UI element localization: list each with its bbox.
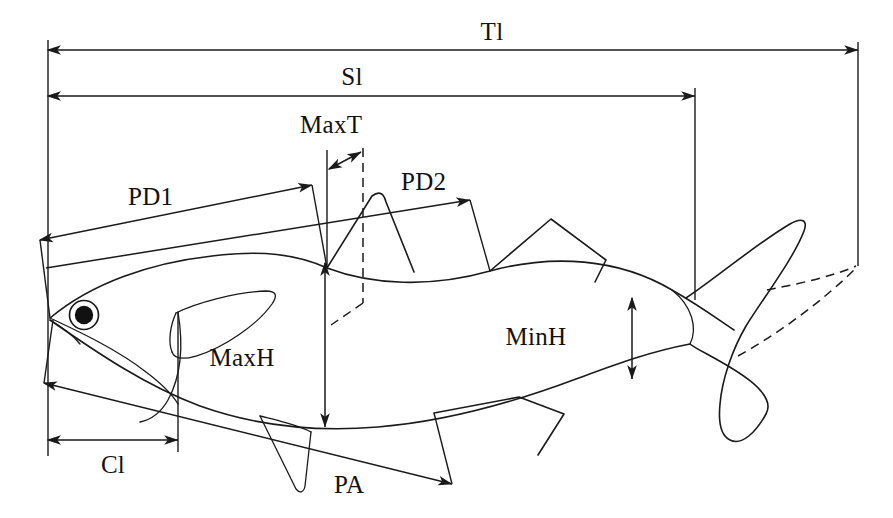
operculum-rear-edge [140,312,181,422]
dorsal-fin [327,193,414,272]
fish-morphometrics-figure: Tl Sl MaxT PD1 PD2 MaxH [0,0,893,518]
label-pa: PA [334,471,364,498]
eye-pupil [75,306,93,324]
pectoral-fin-base [170,313,176,352]
tick-pd1-to-dorsal-origin [312,185,327,268]
dimension-maxt: MaxT [300,111,362,169]
dimension-minh: MinH [506,298,632,379]
anal-fin [434,397,564,455]
dimension-pd2: PD2 [46,168,490,271]
label-pd1: PD1 [128,183,173,210]
label-maxh: MaxH [209,344,274,371]
dimension-cl: Cl [48,440,178,478]
dimension-pd1: PD1 [40,183,327,318]
dimension-line-maxt [329,152,361,169]
caudal-peduncle-edge [672,290,693,344]
fish-diagram-canvas: Tl Sl MaxT PD1 PD2 MaxH [0,0,893,518]
caudal-fin [686,220,805,441]
dashed-diagonal-maxt [331,303,363,325]
dimension-maxh: MaxH [209,263,325,427]
label-minh: MinH [506,323,567,350]
tick-pd2-to-adipose-origin [470,200,490,271]
label-maxt: MaxT [300,111,362,138]
body-outline-ventral [50,320,690,429]
dimension-line-pd2 [46,200,470,268]
operculum-outline [50,318,178,404]
dimension-sl: Sl [48,63,695,96]
dimension-tl: Tl [48,18,858,50]
eye [70,301,99,330]
adipose-fin [490,219,606,282]
label-sl: Sl [341,63,362,90]
caudal-fin-spread-dashed [767,266,856,290]
label-tl: Tl [481,18,504,45]
label-cl: Cl [101,451,125,478]
tick-pa-to-anal-origin [434,413,452,484]
label-pd2: PD2 [401,168,446,195]
